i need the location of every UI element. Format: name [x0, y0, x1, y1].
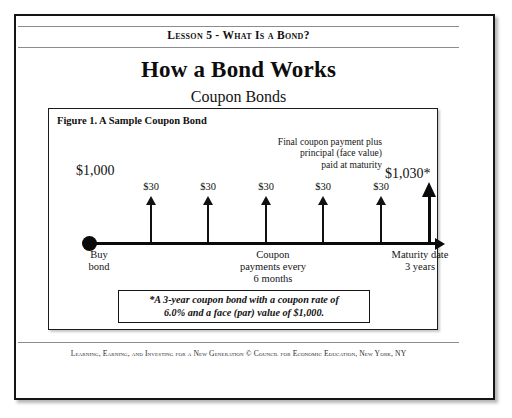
header-rule-bottom	[18, 47, 459, 48]
arrow-stem	[322, 204, 324, 244]
page-root: Lesson 5 - What Is a Bond? How a Bond Wo…	[0, 0, 512, 418]
arrow-stem	[207, 204, 209, 244]
arrow-stem	[150, 204, 152, 244]
timeline-label-maturity-date: Maturity date 3 years	[370, 249, 470, 273]
timeline-label-line-2: payments every	[227, 261, 319, 273]
figure-caption: Figure 1. A Sample Coupon Bond	[57, 115, 207, 126]
arrow-stem	[265, 204, 267, 244]
figure-footnote-line-2: 6.0% and a face (par) value of $1,000.	[149, 307, 339, 319]
coupon-amount-label: $30	[188, 181, 228, 192]
figure-container: Figure 1. A Sample Coupon Bond $1,000 Fi…	[48, 108, 438, 330]
final-payment-note-line-2: principal (face value)	[227, 147, 382, 158]
arrow-right-icon	[435, 238, 445, 250]
timeline-label-line-2: 3 years	[370, 261, 470, 273]
coupon-amount-label: $30	[303, 181, 343, 192]
running-head: Lesson 5 - What Is a Bond?	[18, 29, 459, 41]
arrow-stem	[380, 204, 382, 244]
arrow-stem	[428, 196, 431, 244]
coupon-amount-label: $30	[361, 181, 401, 192]
timeline-label-line-3: 6 months	[227, 273, 319, 285]
timeline-axis	[89, 242, 437, 245]
timeline-label-line-2: bond	[71, 261, 127, 273]
figure-footnote-box: *A 3-year coupon bond with a coupon rate…	[118, 290, 370, 323]
coupon-amount-label: $30	[131, 181, 171, 192]
final-payment-note-line-3: paid at maturity	[227, 159, 382, 170]
timeline-label-line-1: Maturity date	[370, 249, 470, 261]
figure-footnote-text: *A 3-year coupon bond with a coupon rate…	[143, 294, 345, 319]
figure-footnote-line-1: *A 3-year coupon bond with a coupon rate…	[149, 294, 339, 306]
timeline-label-line-1: Coupon	[227, 249, 319, 261]
timeline-label-buy-bond: Buy bond	[71, 249, 127, 273]
maturity-amount-label: $1,030*	[385, 166, 431, 182]
header-rule-top	[18, 26, 459, 27]
page-subtitle: Coupon Bonds	[18, 88, 459, 106]
page-footer: Learning, Earning, and Investing for a N…	[18, 349, 459, 358]
final-payment-note: Final coupon payment plus principal (fac…	[227, 136, 382, 170]
footer-rule	[18, 342, 459, 343]
timeline-label-line-1: Buy	[71, 249, 127, 261]
arrow-up-icon	[422, 182, 436, 197]
coupon-amount-label: $30	[246, 181, 286, 192]
timeline-label-coupon-payments: Coupon payments every 6 months	[227, 249, 319, 285]
final-payment-note-line-1: Final coupon payment plus	[227, 136, 382, 147]
principal-amount-label: $1,000	[76, 163, 115, 179]
page-title: How a Bond Works	[18, 57, 459, 83]
